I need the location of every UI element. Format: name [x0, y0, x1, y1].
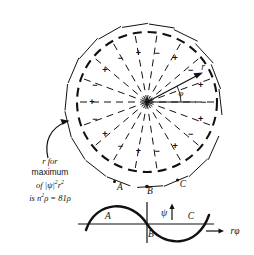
arc-point-label-a: A — [117, 182, 123, 192]
quantum-wavefunction-figure: − + − + − + − + − + − + − + − + − + r φ … — [0, 0, 254, 255]
sector-sign: − — [154, 48, 159, 58]
phi-angle-label: φ — [179, 88, 184, 98]
sector-sign: + — [198, 80, 203, 90]
radius-vector-label: r — [201, 62, 205, 72]
sector-sign: − — [92, 80, 97, 90]
annotation-line-4: is n2ρ = 81ρ — [4, 190, 96, 203]
sector-sign: − — [118, 141, 123, 151]
sector-sign: + — [89, 97, 94, 107]
annotation-line-3: of |ψ|2r2 — [4, 177, 96, 190]
sector-sign: − — [92, 114, 97, 124]
sector-sign: − — [154, 146, 159, 156]
rphi-axis-label: rφ — [231, 226, 240, 236]
radius-annotation: r for maximum of |ψ|2r2 is n2ρ = 81ρ — [4, 156, 96, 204]
sector-sign: − — [201, 97, 206, 107]
sector-sign: − — [188, 65, 193, 75]
arc-point-label-c: C — [180, 179, 186, 189]
sector-sign: + — [136, 146, 141, 156]
sector-sign: − — [118, 53, 123, 63]
sector-sign: + — [102, 65, 107, 75]
sector-sign: + — [172, 53, 177, 63]
sector-sign: − — [188, 129, 193, 139]
annotation-line-2: maximum — [4, 167, 96, 178]
wave-point-label-c: C — [188, 211, 194, 221]
rphi-axis-arrow — [206, 229, 224, 234]
sector-sign: + — [102, 129, 107, 139]
wave-point-label-b: B — [148, 229, 154, 239]
arc-point-label-b: B — [147, 186, 153, 196]
sector-sign: + — [172, 141, 177, 151]
psi-label: ψ — [161, 207, 167, 218]
psi-amplitude-arrow — [169, 204, 174, 221]
wave-point-label-a: A — [105, 211, 111, 221]
figure-canvas — [0, 0, 254, 255]
sector-sign: + — [198, 114, 203, 124]
sector-sign: + — [136, 48, 141, 58]
annotation-leader-arrow — [47, 119, 70, 158]
annotation-line-1: r for — [4, 156, 96, 167]
